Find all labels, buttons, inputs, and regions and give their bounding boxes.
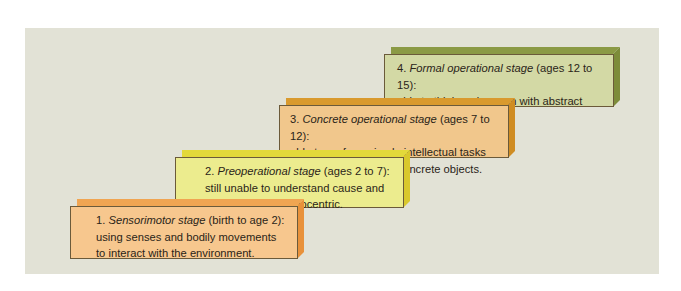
step-side-bevel xyxy=(297,199,304,259)
step-top-bevel xyxy=(286,98,515,105)
step-face: 1. Sensorimotor stage (birth to age 2): … xyxy=(70,206,298,259)
stage-name: Preoperational stage xyxy=(217,165,320,177)
stage-name: Concrete operational stage xyxy=(302,113,436,125)
stage-name: Sensorimotor stage xyxy=(108,214,205,226)
stage-description-line: using senses and bodily movements xyxy=(96,229,289,246)
stage-ages: (ages 2 to 7): xyxy=(324,165,390,177)
stage-number: 2. xyxy=(205,165,214,177)
stage-title-line: 4. Formal operational stage (ages 12 to … xyxy=(397,60,605,93)
step-top-bevel xyxy=(182,150,410,157)
stage-number: 3. xyxy=(290,113,299,125)
stage-1-sensorimotor: 1. Sensorimotor stage (birth to age 2): … xyxy=(70,199,304,259)
stage-ages: (birth to age 2): xyxy=(209,214,285,226)
stage-number: 1. xyxy=(96,214,105,226)
step-side-bevel xyxy=(508,98,515,158)
step-top-bevel xyxy=(77,199,304,206)
stage-title-line: 1. Sensorimotor stage (birth to age 2): xyxy=(96,212,289,229)
stage-description-line: still unable to understand cause and xyxy=(205,180,395,197)
step-side-bevel xyxy=(613,47,620,107)
stage-title-line: 3. Concrete operational stage (ages 7 to… xyxy=(290,111,500,144)
stage-3-concrete-operational: 3. Concrete operational stage (ages 7 to… xyxy=(279,98,516,158)
step-top-bevel xyxy=(391,47,620,54)
stage-name: Formal operational stage xyxy=(409,62,533,74)
step-side-bevel xyxy=(403,150,410,208)
stage-title-line: 2. Preoperational stage (ages 2 to 7): xyxy=(205,163,395,180)
stage-description-line: to interact with the environment. xyxy=(96,245,289,262)
stage-number: 4. xyxy=(397,62,406,74)
